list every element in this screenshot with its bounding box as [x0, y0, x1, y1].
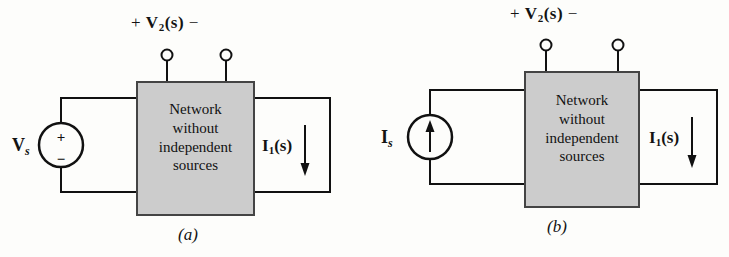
current-arrow-i1 [688, 117, 697, 168]
network-box [525, 72, 639, 207]
panel-a-caption: (a) [178, 226, 198, 243]
v2-argument: (s) [544, 4, 563, 23]
v2-quantity: V [525, 4, 538, 23]
current-source-subscript: s [388, 136, 393, 150]
v2-argument: (s) [165, 13, 184, 32]
voltage-source-subscript: s [25, 144, 30, 158]
network-box [137, 82, 254, 215]
output-current-letter: I [262, 136, 269, 155]
circuit-figure: + V2(s) − Network without independent so… [0, 0, 729, 257]
voltage-source-symbol-letter: V [12, 135, 25, 155]
output-current-argument: (s) [661, 128, 679, 147]
voltage-source-label: Vs [12, 136, 30, 157]
output-current-argument: (s) [274, 136, 292, 155]
source-polarity-minus: − [51, 152, 71, 167]
output-current-label: I1(s) [262, 137, 292, 156]
v2-minus-sign: − [189, 13, 199, 32]
voltage-v2-label: + V2(s) − [510, 5, 578, 24]
terminal-right-circle [613, 40, 624, 51]
panel-b-caption: (b) [547, 218, 567, 235]
current-source-label: Is [381, 128, 393, 149]
panel-a-schematic [0, 0, 364, 257]
source-polarity-plus: + [51, 130, 71, 145]
current-arrow-i1 [301, 125, 310, 176]
current-source-symbol-letter: I [381, 127, 388, 147]
terminal-right-circle [221, 50, 232, 61]
panel-b: + V2(s) − Network without independent so… [364, 0, 728, 257]
terminal-left-circle [162, 50, 173, 61]
output-current-label: I1(s) [649, 129, 679, 148]
voltage-v2-label: + V2(s) − [131, 14, 199, 33]
terminal-left-circle [541, 40, 552, 51]
v2-minus-sign: − [568, 4, 578, 23]
output-current-letter: I [649, 128, 656, 147]
panel-a: + V2(s) − Network without independent so… [0, 0, 364, 257]
v2-quantity: V [146, 13, 159, 32]
v2-plus-sign: + [510, 4, 520, 23]
v2-plus-sign: + [131, 13, 141, 32]
